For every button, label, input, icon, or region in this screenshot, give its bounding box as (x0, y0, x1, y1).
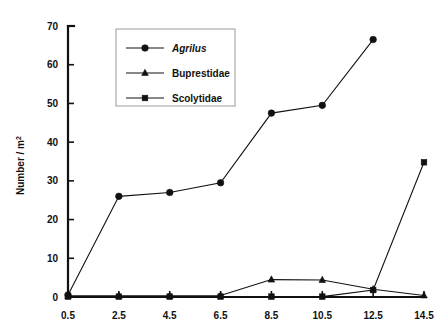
chart-legend: AgrilusBuprestidaeScolytidae (116, 29, 235, 106)
data-point (218, 294, 224, 300)
data-point (370, 287, 376, 293)
x-tick-label: 10.5 (313, 310, 333, 321)
x-tick-label: 4.5 (163, 310, 177, 321)
x-tick-label: 0.5 (61, 310, 75, 321)
legend-sample-marker (142, 95, 148, 101)
x-axis-tick-labels: 0.52.54.56.58.510.512.514.5 (61, 310, 434, 321)
y-tick-label: 20 (47, 214, 59, 225)
legend-label: Agrilus (171, 43, 207, 54)
y-axis-title: Number / m2 (15, 136, 26, 195)
x-tick-label: 14.5 (414, 310, 434, 321)
data-point (269, 294, 275, 300)
y-tick-label: 10 (47, 253, 59, 264)
y-axis-title-text: Number / m2 (15, 136, 26, 195)
legend-sample-marker (142, 45, 149, 52)
x-tick-label: 6.5 (214, 310, 228, 321)
data-point (167, 294, 173, 300)
x-tick-label: 2.5 (112, 310, 126, 321)
data-point (116, 193, 123, 200)
data-point (166, 189, 173, 196)
x-tick-label: 8.5 (264, 310, 278, 321)
y-tick-label: 30 (47, 175, 59, 186)
legend-label: Scolytidae (172, 93, 222, 104)
y-axis-tick-labels: 010203040506070 (47, 21, 59, 303)
y-tick-label: 50 (47, 98, 59, 109)
y-axis: 010203040506070 (47, 21, 74, 303)
y-tick-label: 0 (52, 292, 58, 303)
legend-label: Buprestidae (172, 68, 230, 79)
series-scolytidae (65, 159, 427, 299)
data-point (217, 179, 224, 186)
data-point (268, 110, 275, 117)
y-tick-label: 60 (47, 59, 59, 70)
y-tick-label: 70 (47, 21, 59, 32)
data-point (319, 276, 326, 282)
series-path (68, 162, 424, 296)
data-point (319, 294, 325, 300)
data-point (370, 36, 377, 43)
chart-figure: 010203040506070 0.52.54.56.58.510.512.51… (0, 0, 440, 333)
data-point (65, 294, 71, 300)
data-point (268, 276, 275, 282)
y-tick-label: 40 (47, 137, 59, 148)
data-point (319, 102, 326, 109)
data-point (116, 294, 122, 300)
data-point (421, 159, 427, 165)
x-tick-label: 12.5 (363, 310, 383, 321)
line-chart: 010203040506070 0.52.54.56.58.510.512.51… (0, 0, 440, 333)
